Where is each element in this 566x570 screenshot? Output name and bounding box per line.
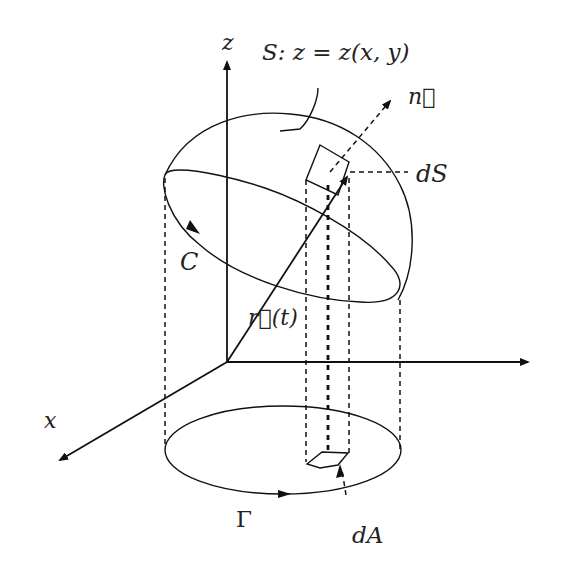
label-dS: dS [416, 160, 448, 188]
surface-pointer [280, 88, 318, 131]
stokes-theorem-diagram: z S: z = z(x, y) n⃗ dS C r⃗(t) x Γ dA [0, 0, 566, 570]
label-x: x [44, 408, 57, 433]
label-gamma: Γ [236, 506, 252, 532]
curve-C [164, 170, 400, 302]
label-normal: n⃗ [408, 84, 435, 109]
axes [60, 62, 528, 460]
label-r-t: r⃗(t) [248, 305, 298, 330]
curve-gamma-arrow-icon [278, 490, 291, 498]
x-axis [60, 362, 227, 460]
label-surface-eq: S: z = z(x, y) [262, 39, 409, 65]
curve-C-arrow-icon [186, 220, 200, 234]
dA-arrow-icon [336, 464, 344, 478]
label-C: C [180, 248, 198, 276]
curve-gamma [165, 406, 401, 494]
normal-vector [330, 101, 390, 172]
region-gamma [165, 406, 401, 498]
label-dA: dA [352, 522, 383, 548]
surface-element-dS [306, 145, 408, 195]
hemisphere-outline [165, 113, 412, 300]
label-z: z [221, 30, 234, 55]
surface-S [164, 88, 413, 302]
